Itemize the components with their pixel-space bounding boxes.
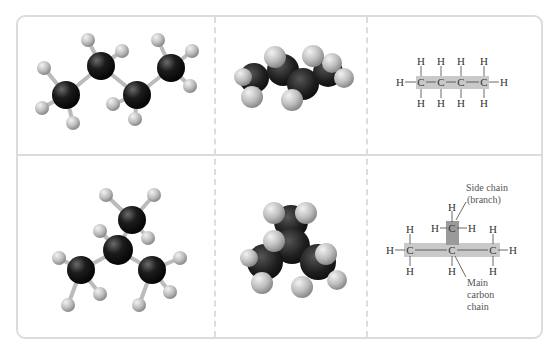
svg-text:H: H [468, 222, 476, 234]
svg-text:C: C [489, 244, 496, 256]
svg-text:C: C [406, 244, 413, 256]
svg-text:C: C [417, 76, 424, 88]
svg-text:H: H [431, 222, 439, 234]
svg-text:H: H [480, 55, 488, 67]
svg-text:H: H [406, 223, 414, 235]
butane-ball-and-stick [35, 33, 199, 130]
side-chain-label-sub: (branch) [467, 194, 501, 206]
side-chain-label: Side chain [466, 182, 508, 193]
svg-text:H: H [396, 76, 404, 88]
svg-text:H: H [457, 55, 465, 67]
svg-text:H: H [489, 265, 497, 277]
svg-text:C: C [480, 76, 487, 88]
svg-text:H: H [386, 244, 394, 256]
svg-text:H: H [509, 244, 517, 256]
svg-text:H: H [437, 55, 445, 67]
svg-text:H: H [417, 97, 425, 109]
svg-text:C: C [448, 222, 455, 234]
main-chain-label: Main [467, 277, 488, 288]
svg-text:H: H [437, 97, 445, 109]
svg-text:H: H [406, 265, 414, 277]
svg-text:H: H [457, 97, 465, 109]
svg-text:H: H [489, 223, 497, 235]
isobutane-structural-formula: H C C C H H H H C H H H H H Side chain (… [386, 182, 517, 312]
butane-structural-formula: H H C C C C H H H H H H H H [396, 55, 508, 109]
svg-text:H: H [448, 265, 456, 277]
isobutane-space-filling [240, 202, 347, 298]
main-chain-label-3: chain [467, 301, 489, 312]
main-chain-highlight [416, 76, 489, 89]
svg-text:H: H [448, 201, 456, 213]
svg-text:C: C [448, 244, 455, 256]
main-chain-label-2: carbon [467, 289, 494, 300]
svg-text:H: H [417, 55, 425, 67]
svg-text:C: C [457, 76, 464, 88]
molecule-figure: H H C C C C H H H H H H H H [0, 0, 554, 354]
isobutane-ball-and-stick [52, 188, 187, 312]
svg-text:H: H [480, 97, 488, 109]
butane-space-filling [234, 45, 354, 111]
svg-text:H: H [500, 76, 508, 88]
svg-text:C: C [437, 76, 444, 88]
